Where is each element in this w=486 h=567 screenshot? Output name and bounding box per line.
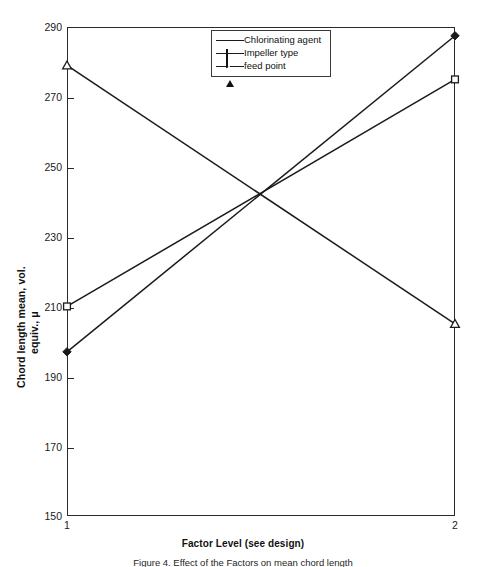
y-tick-mark (67, 98, 74, 99)
y-tick-mark (67, 448, 74, 449)
diamond-marker-icon (216, 34, 244, 46)
figure-caption: Figure 4. Effect of the Factors on mean … (0, 557, 486, 567)
x-axis-title: Factor Level (see design) (0, 538, 486, 549)
y-tick-mark (67, 238, 74, 239)
square-marker-icon (216, 47, 244, 59)
y-tick-mark (67, 168, 74, 169)
legend-item-label: feed point (244, 60, 286, 72)
y-tick-label: 170 (44, 442, 62, 452)
y-tick-mark (67, 308, 74, 309)
y-tick-label: 290 (44, 22, 62, 32)
legend-item-impeller-type[interactable]: Impeller type (216, 47, 326, 59)
legend-item-chlorinating-agent[interactable]: Chlorinating agent (216, 34, 326, 46)
x-tick-label: 2 (452, 519, 458, 531)
y-tick-label: 150 (44, 511, 62, 521)
x-tick-label: 1 (64, 519, 70, 531)
legend: Chlorinating agent Impeller type feed po… (211, 30, 331, 77)
y-axis-title-line2: equiv., μ (28, 311, 40, 354)
y-axis-title: Chord length mean, vol. equiv., μ (14, 148, 48, 388)
legend-item-label: Chlorinating agent (244, 34, 321, 46)
figure-container: 290 270 250 230 210 190 170 150 Chord le… (0, 0, 486, 567)
y-axis-title-line1: Chord length mean, vol. (15, 266, 27, 388)
legend-item-feed-point[interactable]: feed point (216, 60, 326, 72)
y-tick-mark (67, 378, 74, 379)
legend-item-label: Impeller type (244, 47, 298, 59)
triangle-marker-icon (216, 60, 244, 72)
y-tick-label: 270 (44, 92, 62, 102)
plot-area (67, 27, 455, 516)
